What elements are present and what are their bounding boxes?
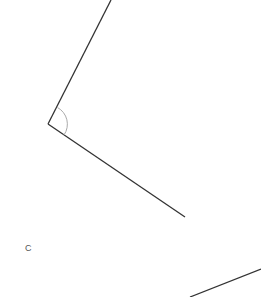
point-c-label: C xyxy=(25,243,32,253)
segment-bottom xyxy=(190,269,261,297)
ray-lower xyxy=(48,124,185,217)
angle-diagram: C xyxy=(0,0,261,297)
ray-upper xyxy=(48,0,111,124)
